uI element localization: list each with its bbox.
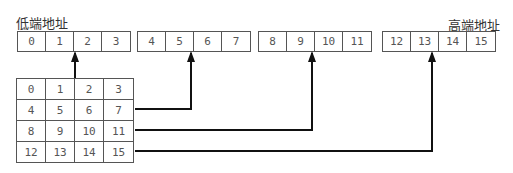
memory-layout-diagram: 低端地址 高端地址 0 1 2 3 4 5 6 7 8 9 10 11 12 1… xyxy=(0,0,513,173)
arrow-row2-icon xyxy=(135,53,312,130)
connector-arrows xyxy=(0,0,513,173)
arrow-row3-icon xyxy=(135,53,432,151)
arrow-row1-icon xyxy=(135,53,191,109)
